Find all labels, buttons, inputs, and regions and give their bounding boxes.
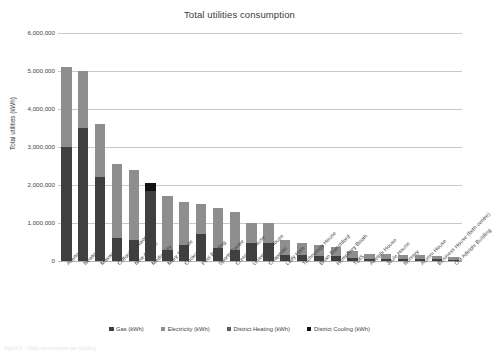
legend-item[interactable]: Gas (kWh) <box>109 326 144 332</box>
bar-segment <box>196 204 206 234</box>
legend-label: District Heating (kWh) <box>234 326 290 332</box>
y-axis-tick-label: 2,000,000 <box>7 181 55 188</box>
bar-segment <box>78 128 88 261</box>
bar-segment <box>129 170 139 240</box>
bar-segment <box>61 147 71 261</box>
chart-legend: Gas (kWh)Electricity (kWh)District Heati… <box>0 326 479 332</box>
legend-swatch-icon <box>161 327 166 332</box>
legend-item[interactable]: District Heating (kWh) <box>227 326 290 332</box>
y-axis-tick-label: 4,000,000 <box>7 105 55 112</box>
y-axis-tick-label: 3,000,000 <box>7 143 55 150</box>
y-axis-tick-label: 0 <box>7 257 55 264</box>
bar-column[interactable] <box>95 124 105 261</box>
bar-segment <box>95 177 105 261</box>
bars-layer <box>58 33 462 261</box>
legend-label: Gas (kWh) <box>116 326 144 332</box>
bar-segment <box>162 196 172 249</box>
y-axis-tick-label: 5,000,000 <box>7 67 55 74</box>
legend-item[interactable]: District Cooling (kWh) <box>307 326 370 332</box>
plot-area <box>58 33 462 261</box>
legend-swatch-icon <box>227 327 232 332</box>
legend-label: Electricity (kWh) <box>168 326 210 332</box>
legend-swatch-icon <box>109 327 114 332</box>
bar-column[interactable] <box>112 164 122 261</box>
y-axis-title: Total utilities (kWh) <box>9 64 16 184</box>
bar-segment <box>112 164 122 238</box>
chart-title: Total utilities consumption <box>0 9 479 20</box>
y-axis-tick-label: 1,000,000 <box>7 219 55 226</box>
legend-label: District Cooling (kWh) <box>314 326 370 332</box>
legend-item[interactable]: Electricity (kWh) <box>161 326 210 332</box>
bar-segment <box>95 124 105 177</box>
x-axis-tick-labels: AllertonNewtonMaxwellClifford WhitworthN… <box>58 262 462 322</box>
bar-segment <box>78 71 88 128</box>
figure-caption: Figure 5 - Utility consumption per build… <box>4 345 304 351</box>
y-axis-tick-label: 6,000,000 <box>7 29 55 36</box>
bar-segment <box>61 67 71 147</box>
legend-swatch-icon <box>307 327 312 332</box>
bar-column[interactable] <box>78 71 88 261</box>
bar-column[interactable] <box>61 67 71 261</box>
bar-segment <box>145 183 155 191</box>
